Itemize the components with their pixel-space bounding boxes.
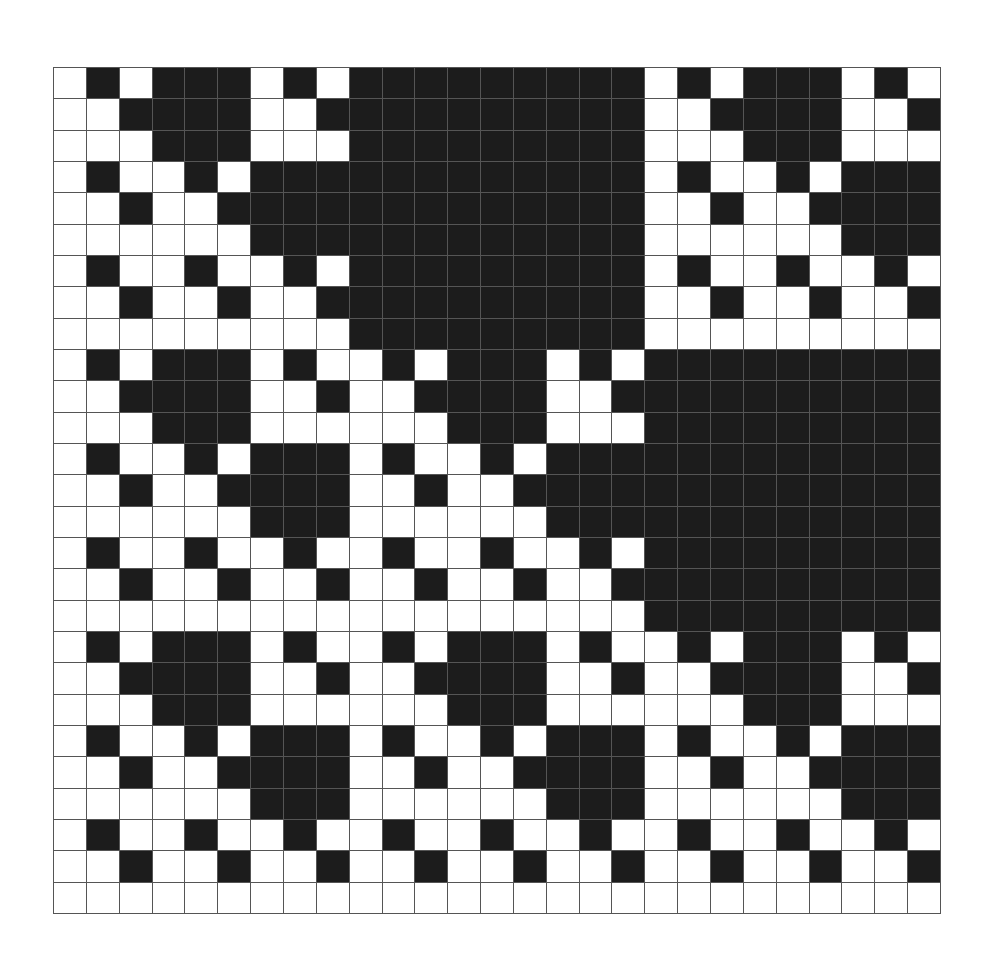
grid-cell: [53, 819, 86, 850]
grid-cell: [611, 474, 644, 505]
grid-cell: [414, 474, 447, 505]
grid-cell: [579, 67, 612, 98]
grid-cell: [644, 568, 677, 599]
grid-cell: [53, 662, 86, 693]
grid-cell: [743, 568, 776, 599]
grid-cell: [874, 192, 907, 223]
grid-cell: [874, 725, 907, 756]
grid-cell: [743, 443, 776, 474]
grid-cell: [250, 819, 283, 850]
grid-cell: [382, 67, 415, 98]
grid-cell: [316, 67, 349, 98]
grid-cell: [349, 443, 382, 474]
grid-cell: [809, 819, 842, 850]
grid-cell: [743, 662, 776, 693]
grid-cell: [119, 850, 152, 881]
grid-cell: [743, 850, 776, 881]
grid-cell: [349, 788, 382, 819]
grid-cell: [250, 318, 283, 349]
grid-cell: [546, 819, 579, 850]
grid-cell: [217, 286, 250, 317]
grid-cell: [217, 506, 250, 537]
grid-cell: [184, 662, 217, 693]
grid-cell: [53, 412, 86, 443]
grid-cell: [119, 224, 152, 255]
grid-cell: [414, 161, 447, 192]
grid-cell: [546, 506, 579, 537]
grid-cell: [283, 819, 316, 850]
grid-cell: [513, 224, 546, 255]
grid-cell: [611, 161, 644, 192]
grid-cell: [480, 631, 513, 662]
grid-cell: [809, 161, 842, 192]
grid-cell: [809, 882, 842, 913]
grid-cell: [809, 286, 842, 317]
grid-cell: [546, 286, 579, 317]
grid-cell: [874, 600, 907, 631]
grid-cell: [86, 380, 119, 411]
grid-cell: [546, 380, 579, 411]
grid-cell: [874, 850, 907, 881]
grid-cell: [152, 380, 185, 411]
grid-cell: [349, 600, 382, 631]
grid-cell: [579, 130, 612, 161]
grid-cell: [546, 255, 579, 286]
grid-cell: [414, 412, 447, 443]
grid-cell: [579, 725, 612, 756]
grid-cell: [776, 850, 809, 881]
grid-cell: [677, 850, 710, 881]
grid-cell: [710, 850, 743, 881]
grid-cell: [316, 349, 349, 380]
grid-cell: [316, 725, 349, 756]
grid-cell: [874, 349, 907, 380]
grid-cell: [513, 631, 546, 662]
grid-cell: [119, 192, 152, 223]
grid-cell: [152, 67, 185, 98]
grid-cell: [414, 882, 447, 913]
grid-cell: [874, 568, 907, 599]
grid-cell: [546, 600, 579, 631]
grid-cell: [217, 380, 250, 411]
grid-cell: [250, 662, 283, 693]
grid-cell: [677, 568, 710, 599]
grid-cell: [414, 130, 447, 161]
grid-cell: [907, 380, 940, 411]
grid-cell: [349, 192, 382, 223]
grid-cell: [119, 537, 152, 568]
grid-cell: [152, 788, 185, 819]
grid-cell: [546, 537, 579, 568]
grid-cell: [579, 788, 612, 819]
grid-cell: [710, 224, 743, 255]
grid-cell: [743, 474, 776, 505]
grid-cell: [776, 192, 809, 223]
grid-cell: [217, 756, 250, 787]
grid-cell: [841, 474, 874, 505]
grid-cell: [86, 224, 119, 255]
grid-cell: [611, 224, 644, 255]
grid-cell: [119, 412, 152, 443]
grid-cell: [447, 819, 480, 850]
grid-cell: [382, 98, 415, 129]
grid-cell: [119, 474, 152, 505]
grid-cell: [316, 443, 349, 474]
grid-cell: [546, 161, 579, 192]
grid-cell: [53, 192, 86, 223]
grid-cell: [874, 443, 907, 474]
grid-cell: [382, 192, 415, 223]
grid-cell: [644, 318, 677, 349]
grid-cell: [119, 67, 152, 98]
grid-cell: [283, 98, 316, 129]
grid-cell: [644, 600, 677, 631]
grid-cell: [874, 412, 907, 443]
grid-cell: [677, 662, 710, 693]
grid-cell: [809, 98, 842, 129]
grid-cell: [841, 224, 874, 255]
grid-cell: [250, 756, 283, 787]
grid-cell: [250, 67, 283, 98]
grid-cell: [743, 161, 776, 192]
grid-cell: [644, 725, 677, 756]
grid-cell: [184, 286, 217, 317]
grid-cell: [710, 694, 743, 725]
grid-cell: [283, 349, 316, 380]
grid-cell: [644, 474, 677, 505]
